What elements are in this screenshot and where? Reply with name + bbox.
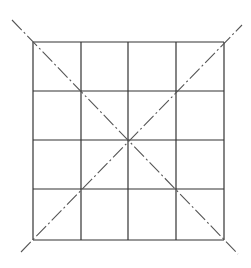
grid-diagram — [0, 0, 251, 268]
diagonal-dash-line — [12, 20, 238, 254]
diagonal-lines — [12, 20, 242, 254]
diagonal-dash-line — [21, 25, 242, 252]
